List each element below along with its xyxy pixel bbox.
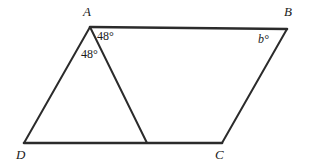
figure-background — [0, 0, 311, 166]
angle-measure-at-a-left: 48° — [81, 48, 98, 60]
vertex-label-a: A — [83, 5, 91, 18]
angle-measure-at-b: b° — [258, 33, 269, 45]
figure-canvas — [0, 0, 311, 166]
vertex-label-c: C — [215, 148, 224, 161]
vertex-label-b: B — [284, 5, 292, 18]
angle-measure-at-a-right: 48° — [97, 30, 114, 42]
geometry-figure: A B C D 48° 48° b° — [0, 0, 311, 166]
vertex-label-d: D — [16, 148, 25, 161]
